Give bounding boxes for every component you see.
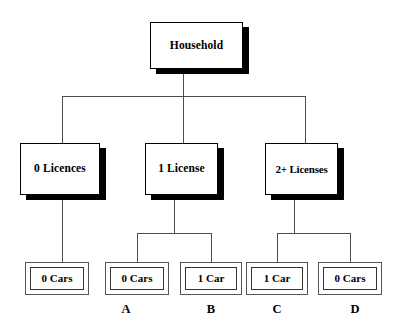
connector-0-licences-to-leaf bbox=[62, 195, 63, 262]
connector-1-license-to-leaf-b bbox=[211, 233, 212, 262]
caption-option-c: C bbox=[257, 303, 297, 316]
connector-1-license-to-leaf-a bbox=[137, 233, 138, 262]
node-face: 2+ Licenses bbox=[265, 143, 338, 195]
connector-2plus-licenses-to-leaf-c bbox=[277, 233, 278, 262]
connector-bus-to-node-2plus-licenses bbox=[305, 96, 306, 143]
node-label: 2+ Licenses bbox=[275, 164, 327, 175]
leaf-0-cars-option-d: 0 Cars bbox=[318, 262, 382, 295]
leaf-label: 0 Cars bbox=[335, 273, 366, 284]
household-licence-car-tree: Household 0 Licences 1 License 2+ Licens… bbox=[0, 0, 399, 331]
node-1-license: 1 License bbox=[145, 143, 218, 195]
leaf-inner-frame: 1 Car bbox=[251, 267, 303, 290]
node-label: Household bbox=[170, 40, 223, 52]
leaf-inner-frame: 1 Car bbox=[185, 267, 237, 290]
caption-option-b: B bbox=[191, 303, 231, 316]
leaf-label: 0 Cars bbox=[122, 273, 153, 284]
node-household: Household bbox=[150, 22, 243, 69]
node-2plus-licenses: 2+ Licenses bbox=[265, 143, 338, 195]
node-face: 1 License bbox=[145, 143, 218, 195]
connector-bus-to-node-0-licences bbox=[62, 96, 63, 143]
node-label: 0 Licences bbox=[34, 163, 86, 175]
node-face: Household bbox=[150, 22, 243, 69]
connector-1-license-stem bbox=[174, 195, 175, 233]
caption-option-d: D bbox=[335, 303, 375, 316]
connector-2plus-licenses-stem bbox=[294, 195, 295, 233]
leaf-label: 1 Car bbox=[198, 273, 225, 284]
leaf-0-cars-option-a: 0 Cars bbox=[105, 262, 169, 295]
connector-bus-to-node-1-license bbox=[183, 96, 184, 143]
leaf-0-cars-under-0-licences: 0 Cars bbox=[25, 262, 89, 295]
connector-1-license-bus bbox=[137, 233, 212, 234]
leaf-inner-frame: 0 Cars bbox=[323, 267, 377, 290]
leaf-inner-frame: 0 Cars bbox=[30, 267, 84, 290]
leaf-inner-frame: 0 Cars bbox=[110, 267, 164, 290]
node-label: 1 License bbox=[158, 163, 205, 175]
caption-option-a: A bbox=[106, 303, 146, 316]
node-0-licences: 0 Licences bbox=[20, 143, 100, 195]
connector-level1-bus bbox=[62, 96, 306, 97]
connector-2plus-licenses-to-leaf-d bbox=[350, 233, 351, 262]
node-face: 0 Licences bbox=[20, 143, 100, 195]
connector-2plus-licenses-bus bbox=[277, 233, 350, 234]
leaf-1-car-option-b: 1 Car bbox=[180, 262, 242, 295]
leaf-label: 1 Car bbox=[264, 273, 291, 284]
leaf-label: 0 Cars bbox=[42, 273, 73, 284]
leaf-1-car-option-c: 1 Car bbox=[246, 262, 308, 295]
